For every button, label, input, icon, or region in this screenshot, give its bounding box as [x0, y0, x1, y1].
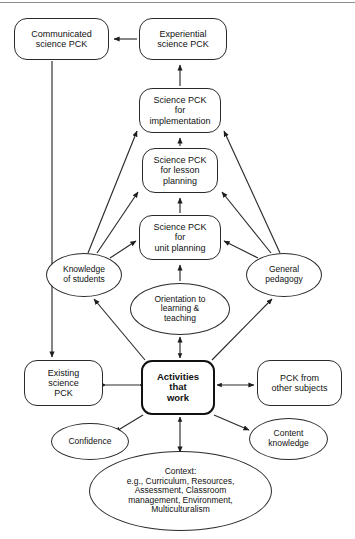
node-content-knowledge[interactable]: Content knowledge: [249, 418, 328, 460]
node-context[interactable]: Context: e.g., Curriculum, Resources, As…: [89, 451, 272, 531]
pck-concept-map: Communicated science PCK Experiential sc…: [0, 0, 355, 539]
edge-knowledge-to-unit: [110, 241, 136, 258]
node-knowledge-of-students[interactable]: Knowledge of students: [46, 253, 122, 297]
node-science-pck-lesson-planning[interactable]: Science PCK for lesson planning: [142, 148, 218, 193]
node-pck-from-other-subjects[interactable]: PCK from other subjects: [257, 360, 342, 406]
node-science-pck-unit-planning[interactable]: Science PCK for unit planning: [139, 215, 221, 260]
node-general-pedagogy[interactable]: General pedagogy: [246, 253, 322, 297]
edge-activities-to-content: [214, 415, 249, 430]
node-orientation-learning-teaching[interactable]: Orientation to learning & teaching: [130, 283, 230, 335]
node-confidence[interactable]: Confidence: [51, 423, 129, 460]
node-science-pck-implementation[interactable]: Science PCK for implementation: [139, 88, 221, 133]
edge-knowledge-to-implementation: [88, 131, 137, 253]
node-activities-that-work[interactable]: Activities that work: [141, 360, 215, 415]
edge-pedagogy-to-implementation: [224, 131, 280, 253]
node-existing-science-pck[interactable]: Existing science PCK: [24, 360, 103, 406]
node-communicated-science-pck[interactable]: Communicated science PCK: [14, 18, 109, 60]
edge-pedagogy-to-unit: [224, 241, 258, 258]
node-experiential-science-pck[interactable]: Experiential science PCK: [139, 18, 227, 60]
